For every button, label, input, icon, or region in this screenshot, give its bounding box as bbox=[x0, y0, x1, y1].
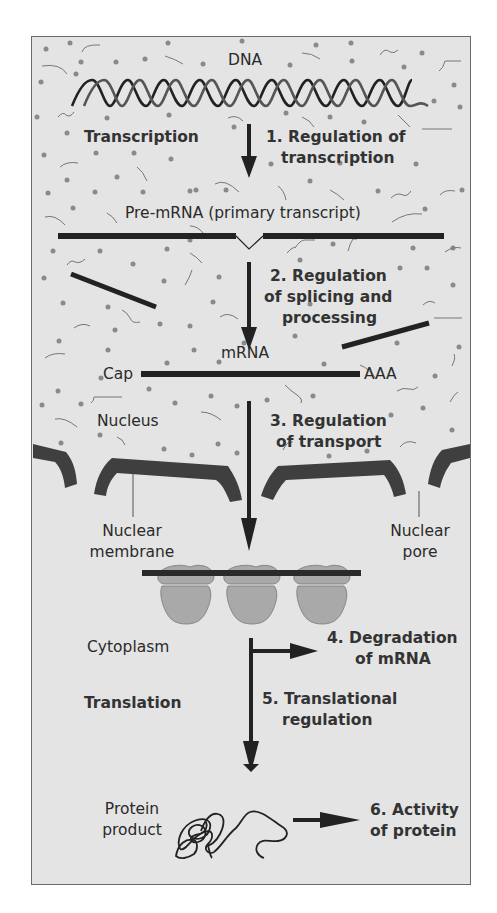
polyribosome bbox=[142, 565, 361, 624]
protein-product-label-line2: product bbox=[92, 820, 172, 840]
nucleus-label: Nucleus bbox=[97, 411, 159, 431]
mrna-on-ribosomes bbox=[142, 570, 361, 576]
arrow-transport bbox=[241, 401, 257, 551]
diagram-artwork bbox=[0, 0, 497, 913]
nuclear-pore-label-line2: pore bbox=[380, 542, 460, 562]
cytoplasm-label: Cytoplasm bbox=[87, 637, 169, 657]
poly-a-tail-label: AAA bbox=[364, 364, 397, 384]
protein-product-icon bbox=[176, 811, 287, 858]
step4-line2: of mRNA bbox=[355, 649, 431, 669]
nuclear-membrane-label-line1: Nuclear bbox=[86, 521, 178, 541]
step5-line1: 5. Translational bbox=[262, 689, 397, 709]
step6-line2: of protein bbox=[370, 821, 456, 841]
nuclear-pore-label-line1: Nuclear bbox=[380, 521, 460, 541]
nuclear-envelope bbox=[33, 444, 470, 502]
step2-line2: of splicing and bbox=[264, 287, 392, 307]
step5-line2: regulation bbox=[282, 710, 372, 730]
arrow-degradation bbox=[251, 643, 318, 659]
step4-line1: 4. Degradation bbox=[327, 628, 458, 648]
dna-label: DNA bbox=[228, 50, 262, 70]
mrna-strand bbox=[141, 371, 360, 377]
arrow-protein-activity bbox=[293, 812, 360, 828]
translation-label: Translation bbox=[84, 693, 181, 713]
nuclear-membrane-label-line2: membrane bbox=[86, 542, 178, 562]
pre-mrna-label: Pre-mRNA (primary transcript) bbox=[125, 203, 361, 223]
step3-line1: 3. Regulation bbox=[270, 411, 387, 431]
transcription-label: Transcription bbox=[84, 127, 199, 147]
step3-line2: of transport bbox=[276, 432, 381, 452]
step2-line3: processing bbox=[282, 308, 377, 328]
pre-mrna-strand bbox=[58, 233, 444, 249]
step1-line2: transcription bbox=[281, 148, 394, 168]
arrow-transcription bbox=[241, 124, 257, 178]
dna-double-helix bbox=[72, 80, 428, 106]
arrow-translation bbox=[243, 638, 259, 772]
step2-line1: 2. Regulation bbox=[270, 266, 387, 286]
arrow-splicing bbox=[241, 262, 257, 350]
mrna-label: mRNA bbox=[221, 343, 269, 363]
step6-line1: 6. Activity bbox=[370, 800, 459, 820]
cap-label: Cap bbox=[103, 364, 133, 384]
protein-product-label-line1: Protein bbox=[92, 799, 172, 819]
step1-line1: 1. Regulation of bbox=[266, 127, 406, 147]
